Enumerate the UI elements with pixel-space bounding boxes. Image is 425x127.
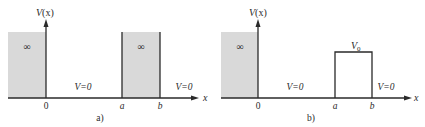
x-axis-arrow-icon [404,96,412,101]
panel-b: V(x) x ∞ V0 V=0 V=0 0 a b b) [221,7,419,124]
tick-label-zero: 0 [44,101,49,111]
y-axis-label: V(x) [249,7,267,19]
y-axis-arrow-icon [44,19,49,27]
x-axis-arrow-icon [191,96,199,101]
tick-label-a: a [333,101,338,111]
infinity-symbol-barrier: ∞ [137,41,144,52]
tick-label-zero: 0 [256,101,261,111]
tick-label-b: b [158,101,163,111]
v-zero-label-well: V=0 [287,82,304,92]
v0-label: V0 [351,40,361,53]
panel-caption-b: b) [307,113,315,124]
potential-diagram: V(x) x ∞ ∞ V=0 V=0 0 a b a) V(x) x ∞ V0 … [0,0,425,127]
x-axis-label: x [202,92,208,103]
infinity-symbol-left: ∞ [236,41,243,52]
y-axis-label: V(x) [36,7,54,19]
tick-label-b: b [370,101,375,111]
finite-barrier-outline [335,52,372,98]
panel-caption-a: a) [96,113,103,124]
tick-label-a: a [120,101,125,111]
v-zero-label-right: V=0 [176,82,193,92]
v-zero-label-well: V=0 [75,82,92,92]
v-zero-label-right: V=0 [378,82,395,92]
x-axis-label: x [413,92,419,103]
panel-a: V(x) x ∞ ∞ V=0 V=0 0 a b a) [8,7,208,124]
y-axis-arrow-icon [256,19,261,27]
infinity-symbol-left: ∞ [23,41,30,52]
